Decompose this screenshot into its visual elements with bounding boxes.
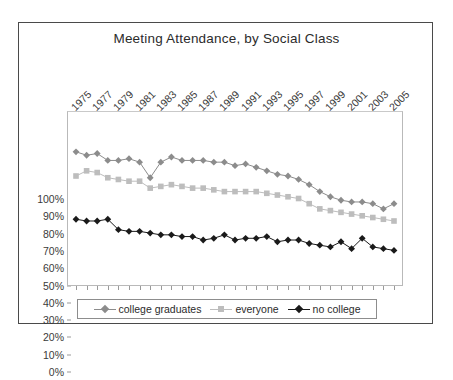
chart-title: Meeting Attendance, by Social Class (19, 31, 434, 46)
x-axis-tick-mark (235, 286, 236, 290)
x-axis-tick-mark (193, 286, 194, 290)
legend-label: everyone (235, 303, 278, 315)
x-axis-tick-label: 1999 (323, 88, 348, 113)
x-axis-tick-mark (373, 286, 374, 290)
x-axis-tick-mark (394, 286, 395, 290)
x-axis-tick-label: 1989 (217, 88, 242, 113)
x-axis-tick-mark (362, 286, 363, 290)
y-axis-tick-label: 70% (43, 245, 64, 257)
x-axis-tick-mark (330, 286, 331, 290)
x-axis-tick-label: 1977 (90, 88, 115, 113)
x-axis-tick-mark (214, 286, 215, 290)
x-axis-tick-label: 2005 (387, 88, 412, 113)
legend-line-swatch (288, 309, 310, 310)
x-axis-tick-label: 1983 (153, 88, 178, 113)
x-axis-tick-label: 1995 (281, 88, 306, 113)
y-axis-tick-label: 60% (43, 262, 64, 274)
x-axis-tick-mark (118, 286, 119, 290)
x-axis-tick-label: 1985 (175, 88, 200, 113)
x-axis-tick-mark (383, 286, 384, 290)
legend-label: college graduates (119, 303, 202, 315)
legend-item[interactable]: everyone (210, 303, 278, 315)
y-axis-tick-label: 50% (43, 280, 64, 292)
x-axis-tick-label: 1981 (132, 88, 157, 113)
y-axis-tick-label: 100% (37, 193, 64, 205)
legend-label: no college (313, 303, 361, 315)
x-axis-tick-mark (171, 286, 172, 290)
x-axis-tick-mark (246, 286, 247, 290)
y-axis-tick-label: 40% (43, 297, 64, 309)
legend-marker-square-icon (218, 306, 224, 312)
x-axis-tick-mark (182, 286, 183, 290)
series-no-college (73, 216, 398, 254)
x-axis-tick-label: 1975 (69, 88, 94, 113)
x-axis-tick-mark (288, 286, 289, 290)
y-axis-tick-mark (67, 337, 71, 338)
x-axis-tick-label: 1997 (302, 88, 327, 113)
y-axis-tick-mark (67, 354, 71, 355)
legend-marker-diamond-icon (100, 305, 108, 313)
chart-frame: Meeting Attendance, by Social Class 1975… (18, 22, 433, 324)
x-axis-tick-label: 1987 (196, 88, 221, 113)
legend-item[interactable]: college graduates (94, 303, 202, 315)
chart-legend: college graduateseveryoneno college (77, 299, 377, 319)
plot-wrapper: 0%10%20%30%40%50%60%70%80%90%100% (67, 111, 403, 286)
x-axis-tick-mark (203, 286, 204, 290)
y-axis-tick-label: 20% (43, 331, 64, 343)
x-axis-tick-label: 1991 (238, 88, 263, 113)
x-axis-tick-mark (309, 286, 310, 290)
plot-area (67, 111, 403, 286)
y-axis-tick-label: 10% (43, 349, 64, 361)
x-axis-tick-mark (87, 286, 88, 290)
x-axis-tick-mark (352, 286, 353, 290)
y-axis-tick-label: 80% (43, 228, 64, 240)
y-axis-tick-mark (67, 372, 71, 373)
x-axis-tick-mark (320, 286, 321, 290)
y-axis-tick-mark (67, 320, 71, 321)
x-axis-tick-label: 2001 (344, 88, 369, 113)
legend-marker-diamond-icon (294, 305, 302, 313)
x-axis-tick-mark (256, 286, 257, 290)
x-axis-tick-mark (97, 286, 98, 290)
y-axis-tick-label: 90% (43, 210, 64, 222)
x-axis-tick-mark (150, 286, 151, 290)
x-axis-tick-mark (277, 286, 278, 290)
x-axis-tick-mark (267, 286, 268, 290)
x-axis-tick-mark (224, 286, 225, 290)
x-axis-tick-label: 2003 (365, 88, 390, 113)
y-axis-labels: 0%10%20%30%40%50%60%70%80%90%100% (22, 192, 64, 380)
legend-item[interactable]: no college (288, 303, 361, 315)
x-axis-tick-mark (129, 286, 130, 290)
x-axis-tick-mark (140, 286, 141, 290)
x-axis-ticks (67, 286, 403, 292)
series-lines (68, 112, 402, 285)
y-axis-tick-label: 0% (49, 366, 64, 378)
x-axis-tick-mark (76, 286, 77, 290)
x-axis-tick-label: 1979 (111, 88, 136, 113)
x-axis-labels: 1975197719791981198319851987198919911993… (67, 71, 417, 113)
x-axis-tick-mark (299, 286, 300, 290)
y-axis-tick-label: 30% (43, 314, 64, 326)
x-axis-tick-mark (108, 286, 109, 290)
x-axis-tick-label: 1993 (259, 88, 284, 113)
series-everyone (73, 168, 397, 224)
y-axis-tick-mark (67, 302, 71, 303)
x-axis-tick-mark (341, 286, 342, 290)
legend-line-swatch (210, 309, 232, 310)
x-axis-tick-mark (161, 286, 162, 290)
legend-line-swatch (94, 309, 116, 310)
